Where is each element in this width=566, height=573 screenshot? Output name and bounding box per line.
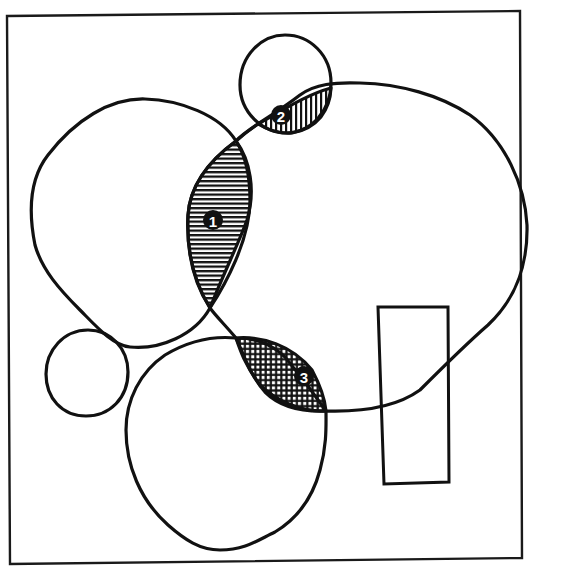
- region-2-vertical-hatch: [258, 88, 331, 133]
- region-2-badge: 2: [271, 105, 291, 125]
- small-left-circle: [46, 330, 128, 416]
- region-1-badge: 1: [203, 210, 223, 230]
- venn-style-diagram: 1 2 3: [0, 0, 566, 573]
- region-2-label: 2: [277, 108, 285, 125]
- region-3-badge: 3: [294, 366, 314, 386]
- region-1-label: 1: [209, 213, 217, 230]
- large-right-blob: [188, 83, 527, 411]
- connector-line-top: [236, 124, 258, 141]
- bottom-blob: [126, 338, 326, 550]
- region-3-label: 3: [300, 369, 308, 386]
